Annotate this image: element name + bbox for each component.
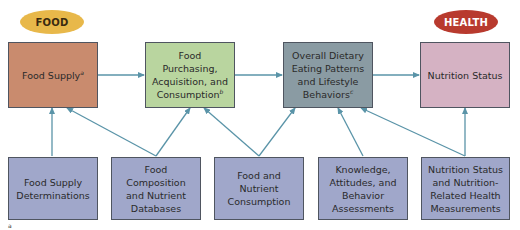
box-food-purchasing: Food Purchasing, Acquisition, and Consum… bbox=[145, 42, 235, 108]
box-text: Food Supply Determinations bbox=[13, 176, 93, 202]
arrow-knowledge-to-dietary bbox=[338, 108, 363, 156]
arrow-measurements-to-dietary bbox=[361, 108, 465, 156]
box-food-composition: Food Composition and Nutrient Databases bbox=[111, 157, 201, 220]
box-text: Food Composition and Nutrient Databases bbox=[116, 163, 196, 215]
box-text: Overall Dietary Eating Patterns and Life… bbox=[292, 50, 364, 100]
footnote-marker: b bbox=[220, 88, 224, 95]
arrow-composition-to-purchasing bbox=[156, 108, 190, 156]
box-text: Food Supply bbox=[22, 70, 80, 81]
box-food-supply-determinations: Food Supply Determinations bbox=[8, 157, 98, 220]
box-nutrition-health-measurements: Nutrition Status and Nutrition-Related H… bbox=[421, 157, 510, 220]
box-food-supply: Food Supplya bbox=[8, 42, 98, 108]
footnote: a bbox=[8, 222, 12, 229]
box-text: Nutrition Status bbox=[428, 70, 503, 81]
footnote-marker: c bbox=[350, 88, 353, 95]
arrow-composition-to-supply bbox=[67, 108, 156, 156]
food-label: FOOD bbox=[20, 10, 84, 34]
box-food-nutrient-consumption: Food and Nutrient Consumption bbox=[214, 157, 304, 220]
arrow-consumption-to-dietary bbox=[259, 108, 295, 156]
health-label: HEALTH bbox=[434, 10, 498, 34]
footnote-marker: a bbox=[80, 69, 84, 76]
box-text: Knowledge, Attitudes, and Behavior Asses… bbox=[323, 163, 403, 215]
box-nutrition-status: Nutrition Status bbox=[420, 42, 510, 108]
box-knowledge-attitudes: Knowledge, Attitudes, and Behavior Asses… bbox=[318, 157, 408, 220]
box-text: Food and Nutrient Consumption bbox=[219, 169, 299, 208]
box-overall-dietary: Overall Dietary Eating Patterns and Life… bbox=[283, 42, 373, 108]
box-text: Nutrition Status and Nutrition-Related H… bbox=[426, 163, 505, 215]
arrow-consumption-to-purchasing bbox=[204, 108, 259, 156]
health-label-text: HEALTH bbox=[444, 17, 488, 28]
box-text: Food Purchasing, Acquisition, and Consum… bbox=[152, 50, 228, 100]
food-label-text: FOOD bbox=[36, 17, 69, 28]
